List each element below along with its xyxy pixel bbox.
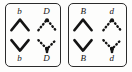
caret-up-dotted-icon	[35, 17, 59, 32]
cell-left-top-right: D	[33, 4, 60, 35]
figure-canvas: b D	[0, 0, 132, 72]
cell-label: b	[17, 54, 22, 63]
caret-down-dotted-icon	[100, 38, 124, 53]
cell-stack: D	[33, 35, 60, 66]
panel-left: b D	[5, 3, 61, 67]
panel-right-inner: B d	[69, 4, 126, 66]
cell-stack: d	[98, 4, 127, 35]
caret-down-dotted-icon	[35, 38, 59, 53]
cell-stack: B	[69, 35, 98, 66]
cell-label: d	[110, 7, 115, 16]
cell-label: B	[81, 7, 87, 16]
cell-right-top-left: B	[69, 4, 98, 35]
cell-stack: B	[69, 4, 98, 35]
caret-down-solid-icon	[8, 38, 32, 53]
cell-right-top-right: d	[98, 4, 127, 35]
cell-label: D	[43, 7, 50, 16]
cell-right-bottom-right: d	[98, 35, 127, 66]
caret-up-solid-icon	[71, 17, 95, 32]
cell-right-bottom-left: B	[69, 35, 98, 66]
caret-up-solid-icon	[8, 17, 32, 32]
cell-stack: b	[6, 4, 33, 35]
cell-left-bottom-left: b	[6, 35, 33, 66]
cell-left-top-left: b	[6, 4, 33, 35]
cell-label: D	[43, 54, 50, 63]
panel-right: B d	[68, 3, 127, 67]
cell-label: B	[81, 54, 87, 63]
cell-label: d	[110, 54, 115, 63]
cell-stack: b	[6, 35, 33, 66]
panel-left-inner: b D	[6, 4, 60, 66]
caret-up-dotted-icon	[100, 17, 124, 32]
cell-stack: D	[33, 4, 60, 35]
cell-label: b	[17, 7, 22, 16]
cell-stack: d	[98, 35, 127, 66]
cell-left-bottom-right: D	[33, 35, 60, 66]
caret-down-solid-icon	[71, 38, 95, 53]
